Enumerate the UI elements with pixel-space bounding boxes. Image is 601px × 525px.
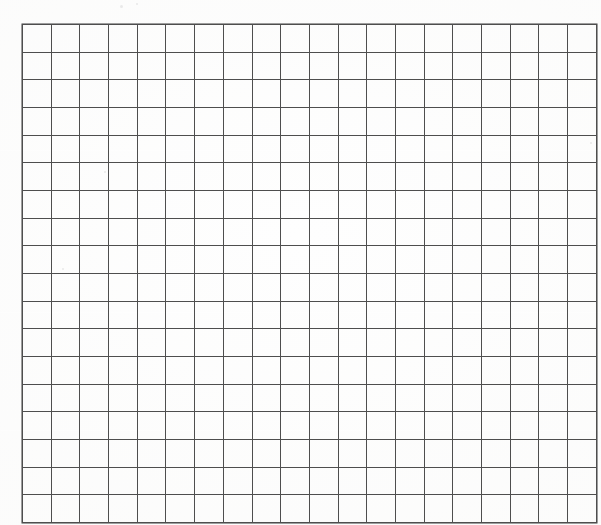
grid-cell[interactable]: [23, 301, 52, 329]
grid-cell[interactable]: [51, 273, 80, 301]
grid-cell[interactable]: [453, 439, 482, 467]
grid-cell[interactable]: [367, 467, 396, 495]
grid-cell[interactable]: [23, 25, 52, 53]
grid-cell[interactable]: [338, 25, 367, 53]
grid-cell[interactable]: [424, 190, 453, 218]
grid-cell[interactable]: [309, 329, 338, 357]
grid-cell[interactable]: [166, 163, 195, 191]
grid-cell[interactable]: [510, 356, 539, 384]
grid-cell[interactable]: [195, 80, 224, 108]
grid-cell[interactable]: [395, 246, 424, 274]
grid-cell[interactable]: [137, 135, 166, 163]
grid-cell[interactable]: [338, 273, 367, 301]
grid-cell[interactable]: [252, 163, 281, 191]
grid-cell[interactable]: [568, 190, 597, 218]
grid-cell[interactable]: [568, 107, 597, 135]
grid-cell[interactable]: [482, 467, 511, 495]
grid-cell[interactable]: [309, 25, 338, 53]
grid-cell[interactable]: [223, 356, 252, 384]
grid-cell[interactable]: [281, 135, 310, 163]
grid-cell[interactable]: [80, 273, 109, 301]
grid-cell[interactable]: [424, 356, 453, 384]
grid-cell[interactable]: [80, 412, 109, 440]
grid-cell[interactable]: [109, 495, 138, 523]
grid-cell[interactable]: [281, 25, 310, 53]
grid-cell[interactable]: [338, 439, 367, 467]
grid-cell[interactable]: [195, 218, 224, 246]
grid-cell[interactable]: [424, 25, 453, 53]
grid-cell[interactable]: [252, 356, 281, 384]
grid-cell[interactable]: [195, 135, 224, 163]
grid-cell[interactable]: [51, 25, 80, 53]
grid-cell[interactable]: [281, 246, 310, 274]
grid-cell[interactable]: [281, 356, 310, 384]
grid-cell[interactable]: [453, 467, 482, 495]
grid-cell[interactable]: [23, 246, 52, 274]
grid-cell[interactable]: [539, 52, 568, 80]
grid-cell[interactable]: [309, 246, 338, 274]
grid-cell[interactable]: [568, 495, 597, 523]
grid-cell[interactable]: [252, 495, 281, 523]
grid-cell[interactable]: [80, 384, 109, 412]
grid-cell[interactable]: [51, 80, 80, 108]
grid-cell[interactable]: [195, 467, 224, 495]
grid-cell[interactable]: [367, 329, 396, 357]
grid-cell[interactable]: [568, 52, 597, 80]
grid-cell[interactable]: [482, 301, 511, 329]
grid-cell[interactable]: [137, 495, 166, 523]
grid-cell[interactable]: [109, 135, 138, 163]
grid-cell[interactable]: [166, 190, 195, 218]
grid-cell[interactable]: [166, 135, 195, 163]
grid-cell[interactable]: [367, 439, 396, 467]
grid-cell[interactable]: [109, 246, 138, 274]
grid-cell[interactable]: [195, 273, 224, 301]
grid-cell[interactable]: [109, 467, 138, 495]
grid-cell[interactable]: [252, 135, 281, 163]
grid-cell[interactable]: [166, 439, 195, 467]
grid-cell[interactable]: [539, 439, 568, 467]
grid-cell[interactable]: [223, 52, 252, 80]
grid-cell[interactable]: [424, 135, 453, 163]
grid-cell[interactable]: [195, 439, 224, 467]
grid-cell[interactable]: [309, 107, 338, 135]
grid-cell[interactable]: [109, 439, 138, 467]
grid-cell[interactable]: [395, 495, 424, 523]
grid-cell[interactable]: [395, 80, 424, 108]
grid-cell[interactable]: [281, 190, 310, 218]
grid-cell[interactable]: [367, 384, 396, 412]
grid-cell[interactable]: [166, 107, 195, 135]
grid-cell[interactable]: [51, 52, 80, 80]
grid-cell[interactable]: [166, 467, 195, 495]
grid-cell[interactable]: [424, 467, 453, 495]
grid-cell[interactable]: [109, 190, 138, 218]
grid-cell[interactable]: [539, 107, 568, 135]
grid-cell[interactable]: [309, 218, 338, 246]
grid-cell[interactable]: [395, 467, 424, 495]
grid-cell[interactable]: [80, 495, 109, 523]
grid-cell[interactable]: [223, 301, 252, 329]
grid-cell[interactable]: [80, 25, 109, 53]
grid-cell[interactable]: [195, 163, 224, 191]
grid-cell[interactable]: [51, 384, 80, 412]
grid-cell[interactable]: [510, 52, 539, 80]
grid-cell[interactable]: [223, 246, 252, 274]
grid-cell[interactable]: [223, 218, 252, 246]
grid-cell[interactable]: [367, 218, 396, 246]
grid-cell[interactable]: [539, 273, 568, 301]
grid-cell[interactable]: [137, 356, 166, 384]
grid-cell[interactable]: [252, 25, 281, 53]
grid-cell[interactable]: [482, 25, 511, 53]
grid-cell[interactable]: [23, 273, 52, 301]
grid-cell[interactable]: [109, 384, 138, 412]
grid-cell[interactable]: [109, 301, 138, 329]
grid-cell[interactable]: [223, 80, 252, 108]
grid-cell[interactable]: [395, 218, 424, 246]
grid-cell[interactable]: [510, 329, 539, 357]
grid-cell[interactable]: [453, 80, 482, 108]
grid-cell[interactable]: [195, 329, 224, 357]
grid-cell[interactable]: [453, 52, 482, 80]
grid-cell[interactable]: [338, 329, 367, 357]
grid-cell[interactable]: [568, 273, 597, 301]
grid-cell[interactable]: [482, 356, 511, 384]
grid-cell[interactable]: [482, 384, 511, 412]
